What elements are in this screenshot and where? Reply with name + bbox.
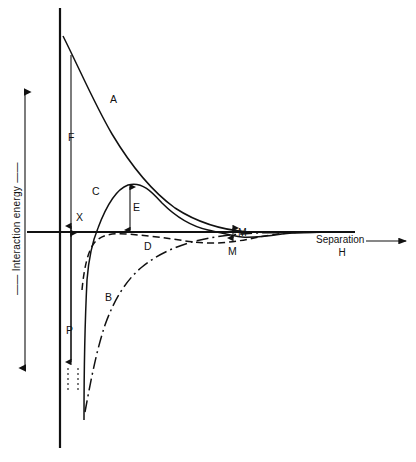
label-f: F	[68, 131, 74, 143]
interaction-energy-diagram: —— Interaction energy —— Separation H F …	[0, 0, 416, 462]
label-e: E	[133, 201, 140, 213]
y-axis-label-group: —— Interaction energy ——	[11, 92, 25, 368]
x-axis-label-group: Separation H	[316, 234, 406, 258]
label-b: B	[105, 291, 112, 303]
label-m-upper: M	[238, 226, 247, 238]
label-m-lower: M	[228, 245, 237, 257]
label-x: X	[76, 211, 83, 223]
curve-b-van-der-waals	[85, 232, 318, 412]
label-p: P	[66, 324, 73, 336]
label-d: D	[144, 240, 152, 252]
label-a: A	[110, 93, 117, 105]
label-c: C	[92, 185, 100, 197]
diagram-canvas: —— Interaction energy —— Separation H F …	[0, 0, 416, 462]
x-axis-label: Separation	[316, 234, 364, 245]
curve-a-repulsion	[63, 36, 330, 233]
y-axis-label: —— Interaction energy ——	[11, 162, 22, 295]
curve-c-total-energy	[84, 184, 332, 420]
x-axis-label-sub: H	[338, 247, 345, 258]
curve-d-dashed	[82, 232, 338, 290]
